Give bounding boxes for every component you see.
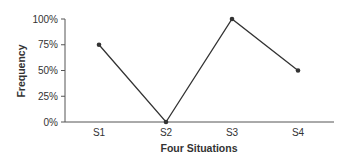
x-tick-label: S1 bbox=[93, 127, 106, 138]
x-tick-label: S4 bbox=[292, 127, 305, 138]
y-ticks: 0%25%50%75%100% bbox=[32, 14, 65, 128]
line-chart: 0%25%50%75%100% S1S2S3S4 Frequency Four … bbox=[0, 0, 344, 159]
data-line bbox=[99, 19, 298, 122]
x-tick-label: S2 bbox=[160, 127, 173, 138]
y-tick-label: 25% bbox=[38, 91, 58, 102]
data-point bbox=[164, 120, 169, 125]
y-tick-label: 75% bbox=[38, 39, 58, 50]
x-tick-label: S3 bbox=[226, 127, 239, 138]
x-axis-title: Four Situations bbox=[161, 142, 238, 154]
data-point bbox=[97, 42, 102, 47]
y-tick-label: 50% bbox=[38, 65, 58, 76]
data-point bbox=[296, 68, 301, 73]
y-tick-label: 0% bbox=[44, 117, 59, 128]
data-point bbox=[230, 17, 235, 22]
chart-svg: 0%25%50%75%100% S1S2S3S4 Frequency Four … bbox=[0, 0, 344, 159]
y-tick-label: 100% bbox=[32, 14, 58, 25]
x-ticks: S1S2S3S4 bbox=[93, 127, 305, 138]
y-axis-title: Frequency bbox=[15, 44, 27, 97]
